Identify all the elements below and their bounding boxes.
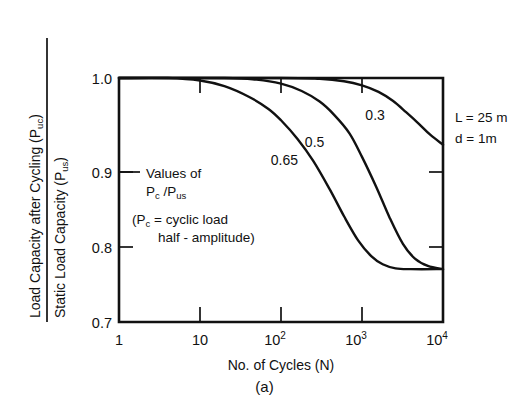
cyclic-load-capacity-chart: Load Capacity after Cycling (Puc) Static… (0, 0, 529, 417)
x-axis-ticks (200, 78, 362, 322)
y-axis-numerator: Load Capacity after Cycling (Puc) (27, 114, 45, 318)
x-tick-label-1000: 103 (345, 330, 367, 348)
annotation-values: Values of Pc /Pus (119, 166, 202, 201)
x-tick-label-1: 1 (115, 332, 123, 348)
y-axis-denominator: Static Load Capacity (Pus) (52, 157, 70, 318)
curve-labels: 0.650.50.3 (271, 107, 385, 168)
x-tick-label-10: 10 (192, 332, 208, 348)
figure-container: Load Capacity after Cycling (Puc) Static… (0, 0, 529, 417)
x-tick-label-100: 102 (264, 330, 286, 348)
curve-label-0.3: 0.3 (365, 107, 385, 123)
x-axis-title: No. of Cycles (N) (228, 357, 335, 373)
x-axis-tick-labels: 1 10 102 103 104 (115, 330, 448, 348)
parameter-diameter: d = 1m (455, 131, 497, 146)
annotation-definition: (Pc = cyclic load half - amplitude) (132, 212, 255, 245)
y-axis-title: Load Capacity after Cycling (Puc) Static… (27, 38, 70, 322)
annotation-values-line2: Pc /Pus (146, 184, 187, 201)
y-axis-tick-labels: 1.0 0.9 0.8 0.7 (92, 71, 112, 331)
annotation-values-line1: Values of (146, 166, 202, 181)
curve-label-0.65: 0.65 (271, 152, 298, 168)
annotation-definition-line1: (Pc = cyclic load (132, 212, 228, 229)
parameter-length: L = 25 m (455, 110, 507, 125)
y-tick-label-1.0: 1.0 (92, 71, 112, 87)
x-tick-label-10000: 104 (426, 330, 448, 348)
annotation-parameters: L = 25 m d = 1m (455, 110, 507, 146)
figure-caption-wrap: (a) (0, 378, 529, 396)
annotation-definition-line2: half - amplitude) (158, 230, 255, 245)
y-tick-label-0.7: 0.7 (92, 315, 112, 331)
plot-frame (119, 78, 443, 322)
y-tick-label-0.8: 0.8 (92, 240, 112, 256)
curve-label-0.5: 0.5 (305, 134, 325, 150)
y-tick-label-0.9: 0.9 (92, 165, 112, 181)
figure-caption: (a) (255, 378, 273, 395)
